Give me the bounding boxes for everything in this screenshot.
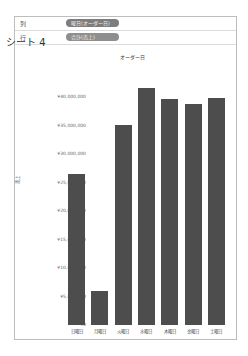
columns-shelf[interactable]: 列 曜日(オーダー日) bbox=[15, 17, 236, 31]
bar[interactable] bbox=[91, 291, 108, 325]
x-tick-label: 日曜日 bbox=[65, 328, 88, 334]
rows-shelf[interactable]: 行 合計(売上) bbox=[15, 31, 236, 45]
bar[interactable] bbox=[161, 99, 178, 325]
y-tick-label: ¥30,000,000 bbox=[57, 151, 86, 156]
x-tick-label: 月曜日 bbox=[88, 328, 111, 334]
x-tick-label: 金曜日 bbox=[182, 328, 205, 334]
x-tick-label: 火曜日 bbox=[112, 328, 135, 334]
y-axis-label: 売上 bbox=[14, 176, 20, 184]
columns-shelf-label: 列 bbox=[20, 19, 28, 28]
x-tick-label: 水曜日 bbox=[135, 328, 158, 334]
sheet-title: シート 4 bbox=[6, 34, 46, 49]
bar[interactable] bbox=[208, 98, 225, 325]
x-tick-label: 土曜日 bbox=[205, 328, 228, 334]
column-header: オーダー日 bbox=[22, 53, 243, 60]
y-tick-label: ¥40,000,000 bbox=[57, 94, 86, 99]
bar[interactable] bbox=[68, 174, 85, 325]
rows-pill[interactable]: 合計(売上) bbox=[66, 33, 119, 41]
bar[interactable] bbox=[185, 104, 202, 325]
columns-pill[interactable]: 曜日(オーダー日) bbox=[66, 19, 119, 27]
y-tick-label: ¥35,000,000 bbox=[57, 123, 86, 128]
bar[interactable] bbox=[138, 88, 155, 325]
x-tick-label: 木曜日 bbox=[158, 328, 181, 334]
bar[interactable] bbox=[115, 125, 132, 325]
